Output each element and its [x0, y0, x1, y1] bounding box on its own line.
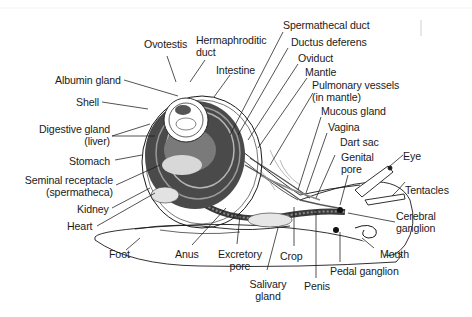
label-anus: Anus: [175, 248, 199, 260]
label-intestine: Intestine: [216, 64, 255, 76]
label-eye: Eye: [403, 150, 421, 162]
label-seminal-receptacle-line2: (spermatheca): [20, 186, 113, 198]
label-genital-pore-line2: pore: [341, 163, 362, 175]
snail-anatomy-diagram: Ovotestis Hermaphroditic duct Intestine …: [0, 0, 472, 317]
label-salivary-gland-line2: gland: [243, 290, 293, 302]
label-ovotestis: Ovotestis: [144, 38, 187, 50]
label-crop: Crop: [280, 250, 303, 262]
label-cerebral-ganglion-line1: Cerebral: [396, 210, 436, 222]
label-oviduct: Oviduct: [298, 52, 333, 64]
label-mucous-gland: Mucous gland: [321, 105, 386, 117]
label-heart: Heart: [67, 220, 92, 232]
label-pulmonary-vessels-line2: (in mantle): [312, 91, 361, 103]
label-digestive-gland-line1: Digestive gland: [38, 123, 110, 135]
label-hermaphroditic-duct-line1: Hermaphroditic: [196, 34, 266, 46]
label-stomach: Stomach: [69, 155, 110, 167]
label-ductus-deferens: Ductus deferens: [291, 36, 367, 48]
label-excretory-pore-line2: pore: [212, 260, 268, 272]
label-pedal-ganglion: Pedal ganglion: [330, 265, 399, 277]
label-tentacles: Tentacles: [405, 184, 449, 196]
label-shell: Shell: [76, 96, 99, 108]
label-albumin-gland: Albumin gland: [55, 74, 121, 86]
label-cerebral-ganglion-line2: ganglion: [396, 222, 435, 234]
shell-drawing: [142, 96, 262, 228]
label-mantle: Mantle: [305, 66, 336, 78]
label-vagina: Vagina: [328, 121, 360, 133]
label-digestive-gland-line2: (liver): [38, 135, 110, 147]
label-genital-pore-line1: Genital: [341, 151, 374, 163]
label-excretory-pore-line1: Excretory: [212, 248, 268, 260]
label-hermaphroditic-duct-line2: duct: [196, 46, 216, 58]
label-spermathecal-duct: Spermathecal duct: [283, 19, 370, 31]
label-kidney: Kidney: [77, 203, 109, 215]
label-seminal-receptacle-line1: Seminal receptacle: [20, 174, 113, 186]
label-pulmonary-vessels-line1: Pulmonary vessels: [312, 79, 399, 91]
label-dart-sac: Dart sac: [340, 136, 379, 148]
label-foot: Foot: [109, 248, 130, 260]
label-salivary-gland-line1: Salivary: [243, 278, 293, 290]
label-penis: Penis: [304, 280, 330, 292]
label-mouth: Mouth: [380, 248, 409, 260]
